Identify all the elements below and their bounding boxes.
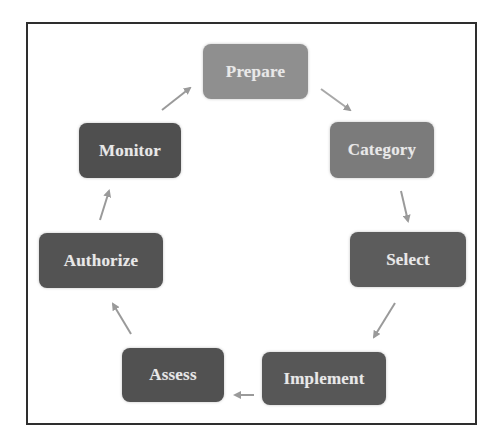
- node-label-prepare: Prepare: [226, 62, 285, 82]
- node-label-assess: Assess: [149, 365, 197, 385]
- node-authorize: Authorize: [39, 233, 163, 288]
- node-implement: Implement: [262, 352, 386, 405]
- node-label-category: Category: [348, 140, 417, 160]
- node-label-implement: Implement: [283, 369, 364, 389]
- node-assess: Assess: [122, 348, 224, 402]
- node-select: Select: [350, 232, 466, 287]
- node-label-monitor: Monitor: [99, 141, 161, 161]
- node-prepare: Prepare: [203, 44, 308, 99]
- node-category: Category: [330, 122, 434, 178]
- node-label-authorize: Authorize: [64, 251, 139, 271]
- node-label-select: Select: [386, 250, 430, 270]
- node-monitor: Monitor: [79, 123, 181, 178]
